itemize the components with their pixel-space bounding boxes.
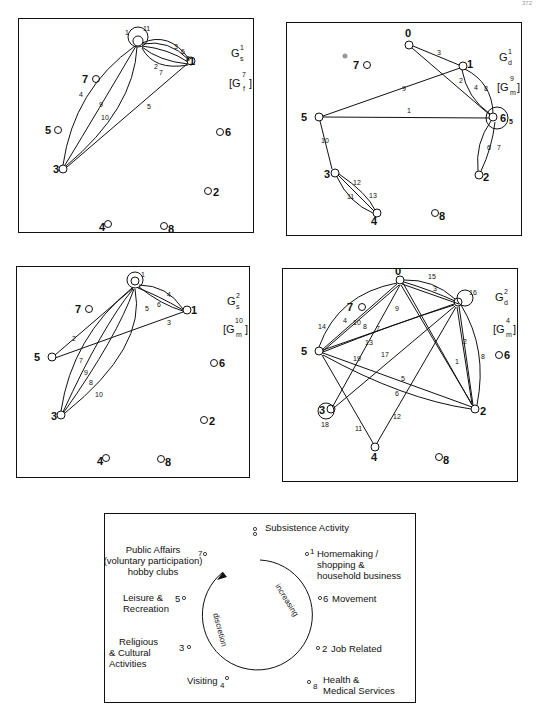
- svg-text:9: 9: [402, 85, 406, 92]
- svg-text:m: m: [506, 331, 512, 338]
- svg-text:]: ]: [245, 323, 248, 335]
- legend-item-2: Job Related: [331, 643, 382, 654]
- svg-text:8: 8: [439, 210, 445, 222]
- svg-text:1: 1: [407, 107, 411, 114]
- svg-text:G: G: [495, 291, 504, 303]
- svg-text:10: 10: [321, 137, 329, 144]
- svg-text:7: 7: [353, 59, 359, 71]
- svg-text:1: 1: [191, 304, 197, 316]
- svg-text:2: 2: [459, 77, 463, 84]
- svg-text:12: 12: [393, 413, 401, 420]
- svg-text:10: 10: [353, 319, 361, 326]
- svg-text:m: m: [236, 331, 242, 338]
- svg-text:3: 3: [167, 319, 171, 326]
- svg-text:s: s: [240, 55, 244, 62]
- svg-text:18: 18: [321, 421, 329, 428]
- svg-text:4: 4: [167, 291, 171, 298]
- svg-text:11: 11: [355, 425, 362, 432]
- svg-text:17: 17: [381, 351, 389, 358]
- svg-text:7: 7: [376, 325, 380, 332]
- svg-text:7: 7: [497, 144, 501, 151]
- legend-item-7-line-2: (voluntary participation): [103, 555, 203, 566]
- svg-text:7: 7: [82, 73, 88, 85]
- svg-text:2: 2: [483, 171, 489, 183]
- legend-panel: increasing discretion Subsistence Activi…: [104, 513, 416, 703]
- svg-text:4: 4: [474, 84, 478, 91]
- svg-text:9: 9: [84, 369, 88, 376]
- svg-text:8: 8: [89, 379, 93, 386]
- svg-text:m: m: [510, 89, 516, 96]
- svg-text:]: ]: [517, 81, 520, 93]
- graph-gs1: 111 368 27 49105 1 7 5 6 3 2 4 8 Gs1 [Gf…: [19, 19, 255, 234]
- svg-text:8: 8: [363, 323, 367, 330]
- svg-text:9: 9: [510, 75, 514, 82]
- svg-text:5: 5: [509, 118, 513, 125]
- graph-panel-gd1: 3248 91 67 10121311 0 1 65 5 3 4 2 7 8 G…: [286, 22, 522, 236]
- legend-item-3-line-1: Religious: [109, 636, 158, 647]
- legend-num-6: 6: [323, 593, 328, 604]
- svg-text:0: 0: [405, 27, 411, 39]
- svg-text:3: 3: [174, 43, 178, 50]
- svg-text:9: 9: [395, 305, 399, 312]
- legend-item-3-line-2: & Cultural: [109, 647, 158, 658]
- svg-text:6: 6: [219, 357, 225, 369]
- legend-num-7: 7: [198, 548, 202, 559]
- svg-text:f: f: [243, 85, 245, 92]
- svg-text:4: 4: [506, 317, 510, 324]
- graph-panel-gs1: 111 368 27 49105 1 7 5 6 3 2 4 8 Gs1 [Gf…: [18, 18, 254, 233]
- svg-text:12: 12: [353, 179, 361, 186]
- svg-text:]: ]: [513, 323, 516, 335]
- legend-item-7: Public Affairs (voluntary participation)…: [103, 544, 203, 577]
- svg-text:16: 16: [469, 289, 477, 296]
- svg-text:5: 5: [45, 124, 51, 136]
- legend-item-1-line-1: Homemaking /: [317, 548, 401, 559]
- svg-text:8: 8: [484, 85, 488, 92]
- svg-text:4: 4: [79, 91, 83, 98]
- svg-text:14: 14: [318, 323, 326, 330]
- svg-text:6: 6: [181, 48, 185, 55]
- svg-text:5: 5: [34, 351, 40, 363]
- graph-gd2: 15316 1441087 9131719 218 56 111218 0 5 …: [283, 269, 519, 483]
- page-number: 372: [522, 0, 532, 6]
- graph-gd1: 3248 91 67 10121311 0 1 65 5 3 4 2 7 8 G…: [287, 23, 523, 237]
- svg-text:7: 7: [347, 301, 353, 313]
- increasing-label: increasing: [273, 582, 300, 618]
- svg-text:13: 13: [369, 192, 377, 199]
- svg-text:5: 5: [301, 111, 307, 123]
- legend-item-5-line-2: Recreation: [123, 603, 169, 614]
- svg-text:3: 3: [319, 404, 325, 416]
- legend-item-8-line-1: Health &: [323, 674, 395, 685]
- svg-text:19: 19: [353, 355, 361, 362]
- svg-text:11: 11: [347, 193, 354, 200]
- svg-text:2: 2: [154, 63, 158, 70]
- svg-text:4: 4: [343, 317, 347, 324]
- legend-item-3: Religious & Cultural Activities: [109, 636, 158, 669]
- svg-text:[G: [G: [493, 323, 505, 335]
- svg-text:7: 7: [242, 71, 246, 78]
- legend-item-0: Subsistence Activity: [265, 522, 349, 533]
- legend-item-4: Visiting: [187, 675, 217, 686]
- svg-text:5: 5: [301, 345, 307, 357]
- svg-text:1: 1: [508, 48, 512, 55]
- svg-text:3: 3: [437, 49, 441, 56]
- svg-text:1: 1: [240, 44, 244, 51]
- legend-item-5-line-1: Leisure &: [123, 592, 169, 603]
- legend-num-2: 2: [322, 643, 327, 654]
- svg-text:G: G: [499, 51, 508, 63]
- legend-item-6: Movement: [332, 593, 376, 604]
- svg-text:6: 6: [225, 126, 231, 138]
- svg-text:2: 2: [209, 415, 215, 427]
- svg-text:6: 6: [395, 390, 399, 397]
- svg-text:G: G: [227, 295, 236, 307]
- svg-text:[G: [G: [497, 81, 509, 93]
- svg-text:8: 8: [443, 454, 449, 466]
- legend-item-8: Health & Medical Services: [323, 674, 395, 696]
- graph-panel-gd2: 15316 1441087 9131719 218 56 111218 0 5 …: [282, 268, 518, 482]
- svg-text:1: 1: [189, 55, 195, 67]
- svg-text:10: 10: [101, 114, 109, 121]
- legend-item-3-line-3: Activities: [109, 658, 158, 669]
- svg-text:7: 7: [75, 303, 81, 315]
- svg-text:d: d: [508, 59, 512, 66]
- svg-text:9: 9: [99, 101, 103, 108]
- svg-text:2: 2: [72, 335, 76, 342]
